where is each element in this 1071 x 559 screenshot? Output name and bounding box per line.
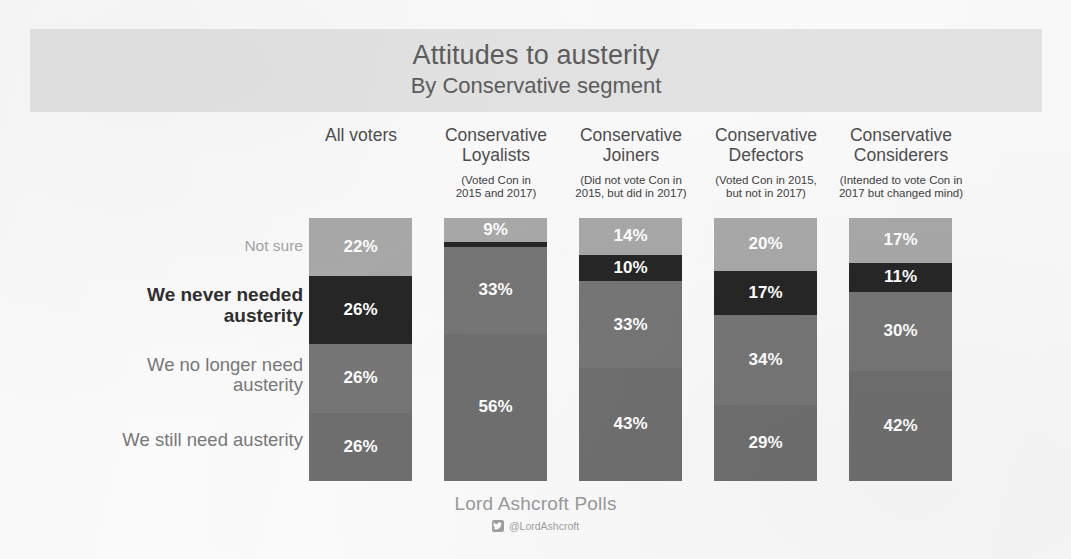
bar-segment: 17% <box>849 218 952 263</box>
bar-segment: 29% <box>714 405 817 481</box>
row-label-still-need: We still need austerity <box>122 430 303 450</box>
bar-segment: 26% <box>309 276 412 344</box>
row-label-never-needed: We never needed austerity <box>147 285 303 327</box>
column-header-note: (Voted Con in 2015, but not in 2017) <box>690 174 842 201</box>
bar-segment: 11% <box>849 263 952 292</box>
column-header-name: Conservative Considerers <box>825 126 977 166</box>
column-header-conservative-loyalists: Conservative Loyalists (Voted Con in 201… <box>420 126 572 201</box>
bar-segment: 26% <box>309 413 412 481</box>
column-header-name: Conservative Defectors <box>690 126 842 166</box>
column-header-conservative-joiners: Conservative Joiners (Did not vote Con i… <box>555 126 707 201</box>
social-handle-row: @LordAshcroft <box>0 520 1071 532</box>
column-header-name: Conservative Loyalists <box>420 126 572 166</box>
bar-segment: 33% <box>444 247 547 334</box>
column-header-name: Conservative Joiners <box>555 126 707 166</box>
twitter-handle: @LordAshcroft <box>509 520 579 532</box>
column-header-conservative-defectors: Conservative Defectors (Voted Con in 201… <box>690 126 842 201</box>
bar-segment: 17% <box>714 271 817 316</box>
title-band: Attitudes to austerity By Conservative s… <box>30 29 1042 112</box>
column-header-all-voters: All voters <box>285 126 437 154</box>
footer: Lord Ashcroft Polls @LordAshcroft <box>0 493 1071 532</box>
stacked-bar-conservative-considerers: 17%11%30%42% <box>849 218 952 481</box>
twitter-bird-icon[interactable] <box>492 520 504 532</box>
bar-segment: 22% <box>309 218 412 276</box>
stacked-bar-all-voters: 22%26%26%26% <box>309 218 412 481</box>
stacked-bar-conservative-joiners: 14%10%33%43% <box>579 218 682 481</box>
column-header-name: All voters <box>285 126 437 146</box>
chart-subtitle: By Conservative segment <box>411 72 662 101</box>
bar-segment: 26% <box>309 344 412 412</box>
bar-segment: 43% <box>579 368 682 481</box>
stacked-bar-conservative-defectors: 20%17%34%29% <box>714 218 817 481</box>
bar-segment: 20% <box>714 218 817 271</box>
column-header-note: (Voted Con in 2015 and 2017) <box>420 174 572 201</box>
bar-segment: 9% <box>444 218 547 242</box>
bar-segment: 10% <box>579 255 682 281</box>
bar-segment: 14% <box>579 218 682 255</box>
chart-title: Attitudes to austerity <box>413 40 660 70</box>
stacked-bar-conservative-loyalists: 9%33%56% <box>444 218 547 481</box>
brand-label: Lord Ashcroft Polls <box>0 493 1071 515</box>
bar-segment: 42% <box>849 371 952 481</box>
bar-segment: 34% <box>714 315 817 404</box>
row-label-no-longer-need: We no longer need austerity <box>147 355 303 396</box>
row-label-not-sure: Not sure <box>244 237 303 254</box>
column-header-note: (Intended to vote Con in 2017 but change… <box>825 174 977 201</box>
bar-segment: 30% <box>849 292 952 371</box>
bar-segment: 56% <box>444 334 547 481</box>
column-header-note: (Did not vote Con in 2015, but did in 20… <box>555 174 707 201</box>
bar-segment: 33% <box>579 281 682 368</box>
column-header-conservative-considerers: Conservative Considerers (Intended to vo… <box>825 126 977 201</box>
